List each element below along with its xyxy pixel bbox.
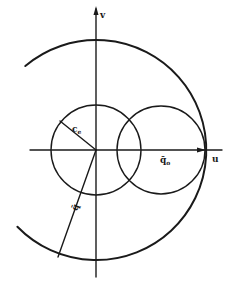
q-label: q̄ [70, 202, 82, 212]
radius-ce-line [60, 121, 96, 150]
v-axis-arrow [94, 6, 99, 15]
ce-label-sub: e [77, 128, 81, 135]
v-axis-label: v [99, 10, 106, 20]
ce-label: ce [72, 124, 81, 135]
velocity-diagram: v u ce q̄o q̄ [0, 0, 237, 285]
q0-label-sub: o [166, 159, 170, 166]
u-axis-label: u [212, 154, 219, 164]
q0-label: q̄o [160, 155, 170, 166]
radius-q-line [58, 150, 96, 257]
